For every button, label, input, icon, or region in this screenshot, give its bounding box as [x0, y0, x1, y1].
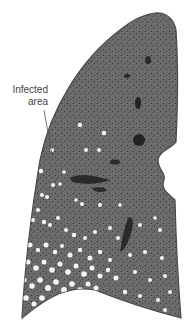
lung-illustration	[0, 0, 184, 328]
lung-outline	[22, 13, 181, 318]
